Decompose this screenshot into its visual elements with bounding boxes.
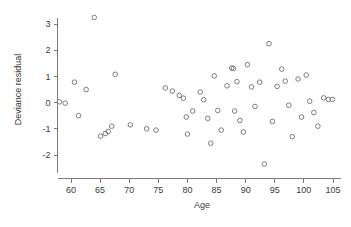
- plot-canvas: -2-101236065707580859095100105AgeDevianc…: [0, 0, 351, 227]
- data-point: [181, 96, 186, 101]
- data-point: [212, 74, 217, 79]
- data-point: [113, 72, 118, 77]
- data-point: [296, 77, 301, 82]
- data-point: [311, 110, 316, 115]
- y-axis-tick-label: -1: [42, 124, 50, 134]
- data-point: [84, 87, 89, 92]
- data-point: [225, 84, 230, 89]
- x-axis-tick-label: 65: [95, 185, 105, 195]
- data-point: [144, 127, 149, 132]
- x-axis-tick-label: 70: [124, 185, 134, 195]
- x-axis-tick-label: 75: [153, 185, 163, 195]
- data-point: [257, 80, 262, 85]
- data-point: [163, 86, 168, 91]
- data-point: [98, 134, 103, 139]
- data-point: [92, 15, 97, 20]
- y-axis-tick-label: 0: [45, 98, 50, 108]
- data-point: [267, 41, 272, 46]
- data-point: [286, 103, 291, 108]
- x-axis-tick-label: 100: [296, 185, 311, 195]
- data-point: [304, 73, 309, 78]
- data-point: [170, 89, 175, 94]
- data-point: [63, 101, 68, 106]
- data-point: [316, 124, 321, 129]
- data-point: [109, 124, 114, 129]
- y-axis-title: Deviance residual: [13, 54, 23, 126]
- x-axis-title: Age: [194, 200, 210, 210]
- data-point: [249, 85, 254, 90]
- data-point: [290, 134, 295, 139]
- x-axis-tick-label: 95: [270, 185, 280, 195]
- data-point: [283, 79, 288, 84]
- y-axis-tick-label: 3: [45, 19, 50, 29]
- x-axis-tick-label: 80: [182, 185, 192, 195]
- data-point: [299, 115, 304, 120]
- data-point: [198, 90, 203, 95]
- data-point: [235, 79, 240, 84]
- axis-labels-layer: -2-101236065707580859095100105AgeDevianc…: [13, 19, 341, 209]
- data-point: [76, 113, 81, 118]
- data-point: [185, 132, 190, 137]
- data-points-layer: [57, 15, 335, 166]
- data-point: [215, 108, 220, 113]
- data-point: [208, 141, 213, 146]
- data-point: [253, 104, 258, 109]
- x-axis-tick-label: 60: [66, 185, 76, 195]
- data-point: [128, 123, 133, 128]
- data-point: [72, 80, 77, 85]
- y-axis-tick-label: 1: [45, 72, 50, 82]
- data-point: [206, 116, 211, 121]
- data-point: [275, 84, 280, 89]
- x-axis-tick-label: 105: [325, 185, 340, 195]
- data-point: [279, 67, 284, 72]
- data-point: [270, 119, 275, 124]
- y-axis-tick-label: -2: [42, 150, 50, 160]
- scatter-plot-figure: -2-101236065707580859095100105AgeDevianc…: [0, 0, 351, 227]
- data-point: [201, 97, 206, 102]
- data-point: [219, 128, 224, 133]
- data-point: [262, 162, 267, 167]
- data-point: [321, 96, 326, 101]
- x-axis-tick-label: 85: [212, 185, 222, 195]
- x-axis-tick-label: 90: [241, 185, 251, 195]
- data-point: [154, 128, 159, 133]
- data-point: [184, 115, 189, 120]
- data-point: [232, 109, 237, 114]
- data-point: [307, 99, 312, 104]
- data-point: [190, 109, 195, 114]
- data-point: [238, 118, 243, 123]
- data-point: [241, 130, 246, 135]
- axes-layer: [54, 18, 342, 183]
- data-point: [245, 62, 250, 67]
- y-axis-tick-label: 2: [45, 45, 50, 55]
